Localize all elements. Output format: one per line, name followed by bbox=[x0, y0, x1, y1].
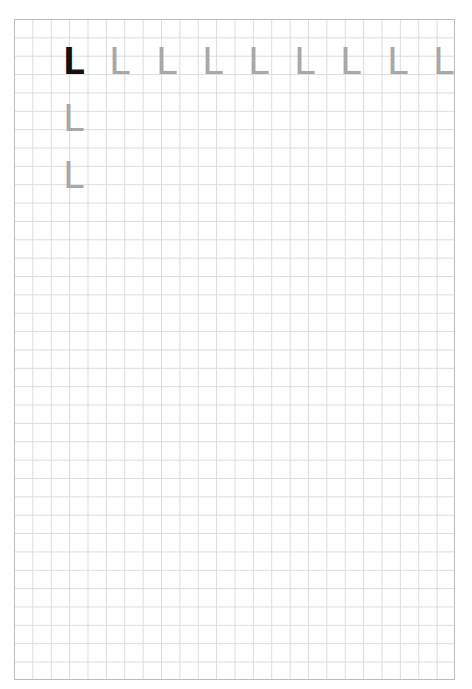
trace-letter: L bbox=[62, 158, 88, 198]
trace-letter: L bbox=[62, 101, 88, 141]
trace-letter: L bbox=[108, 44, 134, 84]
handwriting-grid-sheet: L L L L L L L L L L L bbox=[14, 19, 455, 680]
model-letter: L bbox=[62, 44, 88, 84]
trace-letter: L bbox=[339, 44, 365, 84]
trace-letter: L bbox=[432, 44, 455, 84]
trace-letter: L bbox=[201, 44, 227, 84]
trace-letter: L bbox=[247, 44, 273, 84]
trace-letter: L bbox=[293, 44, 319, 84]
trace-letter: L bbox=[386, 44, 412, 84]
trace-letter: L bbox=[155, 44, 181, 84]
